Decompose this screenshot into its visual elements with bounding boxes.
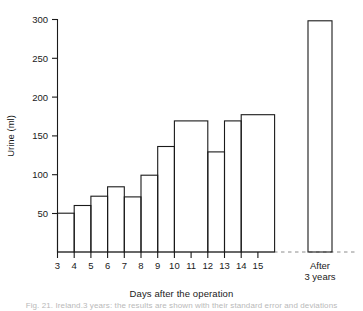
figure-caption: Fig. 21. Ireland.3 years: the results ar… — [0, 301, 363, 310]
x-tick-label-5: 5 — [88, 260, 93, 271]
x-tick-label-12: 12 — [203, 260, 214, 271]
x-axis-title: Days after the operation — [0, 288, 363, 299]
x-tick-label-9: 9 — [155, 260, 160, 271]
x-tick-label-14: 14 — [236, 260, 247, 271]
y-tick-label-100: 100 — [32, 169, 48, 180]
x-tick-label-13: 13 — [219, 260, 230, 271]
y-tick-label-300: 300 — [32, 14, 48, 25]
bar-day-13 — [225, 121, 242, 252]
y-tick-label-250: 250 — [32, 53, 48, 64]
y-tick-label-200: 200 — [32, 92, 48, 103]
x-tick-label-group: 3 4 5 6 7 8 9 10 11 12 13 14 15 After 3 … — [55, 260, 336, 282]
y-tick-group: 300 250 200 150 100 50 — [32, 14, 57, 219]
x-tick-label-4: 4 — [72, 260, 77, 271]
bar-day-12 — [208, 152, 225, 252]
x-tick-label-11: 11 — [186, 260, 196, 271]
bar-day-5 — [91, 196, 108, 252]
bar-day-3 — [58, 213, 75, 252]
x-tick-label-after-line2: 3 years — [304, 271, 335, 282]
bar-day-6 — [108, 187, 125, 252]
bar-day-10-11 — [174, 121, 207, 252]
y-axis-title: Urine (ml) — [5, 115, 16, 157]
bar-day-4 — [74, 206, 91, 253]
bar-after-3-years — [308, 21, 332, 252]
x-tick-label-after-line1: After — [310, 260, 330, 271]
x-tick-label-3: 3 — [55, 260, 60, 271]
bar-day-14-15 — [241, 115, 274, 252]
bar-day-8 — [141, 175, 158, 252]
x-tick-label-10: 10 — [169, 260, 180, 271]
x-tick-label-6: 6 — [105, 260, 110, 271]
x-tick-group — [58, 252, 258, 258]
x-tick-label-8: 8 — [138, 260, 143, 271]
bar-day-9 — [158, 147, 175, 253]
bar-group — [58, 21, 333, 252]
x-tick-label-15: 15 — [253, 260, 264, 271]
urine-output-bar-chart: Urine (ml) 300 250 200 150 100 50 — [0, 0, 363, 311]
x-tick-label-7: 7 — [122, 260, 127, 271]
y-tick-label-150: 150 — [32, 130, 48, 141]
bar-day-7 — [124, 197, 141, 252]
y-tick-label-50: 50 — [37, 208, 48, 219]
